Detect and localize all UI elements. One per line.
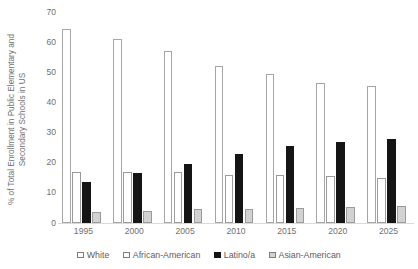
legend-entry[interactable]: Latino/a <box>214 250 255 260</box>
bar <box>326 176 335 223</box>
bar <box>245 209 254 223</box>
bar <box>164 51 173 223</box>
bar <box>62 29 71 223</box>
x-axis-tick-label: 2025 <box>363 226 414 237</box>
bar <box>276 175 285 223</box>
y-axis-title-line2: Secondary Schools in US <box>17 34 28 205</box>
bar <box>266 74 275 223</box>
bar <box>377 178 386 223</box>
y-axis-title: % of Total Enrollment in Public Elementa… <box>0 0 34 238</box>
bar <box>194 209 203 223</box>
bar <box>367 86 376 223</box>
x-axis-tick-labels: 1995200020052010201520202025 <box>58 226 414 240</box>
legend-label: Asian-American <box>279 250 341 260</box>
bar <box>82 182 91 223</box>
bar <box>215 66 224 223</box>
x-axis-line <box>58 223 414 224</box>
bar <box>92 212 101 223</box>
x-axis-tick-label: 2005 <box>160 226 211 237</box>
bar-chart: % of Total Enrollment in Public Elementa… <box>0 0 418 269</box>
bar <box>123 172 132 223</box>
bar <box>296 208 305 223</box>
y-axis-tick-label: 70 <box>46 8 56 17</box>
chart-legend: WhiteAfrican-AmericanLatino/aAsian-Ameri… <box>0 247 418 263</box>
legend-entry[interactable]: Asian-American <box>269 250 341 260</box>
bar <box>387 139 396 223</box>
legend-swatch-icon <box>123 252 130 259</box>
legend-label: African-American <box>133 250 200 260</box>
y-axis-tick-label: 10 <box>46 188 56 197</box>
bar <box>174 172 183 223</box>
bar <box>397 206 406 223</box>
y-axis-tick-label: 40 <box>46 98 56 107</box>
bar-group <box>109 12 160 223</box>
y-axis-tick-labels: 010203040506070 <box>30 0 58 238</box>
bar <box>72 172 81 223</box>
bar <box>286 146 295 223</box>
legend-swatch-icon <box>214 252 221 259</box>
bar-group <box>312 12 363 223</box>
bar <box>346 207 355 223</box>
bar-group <box>160 12 211 223</box>
legend-label: Latino/a <box>224 250 255 260</box>
x-axis-tick-label: 2000 <box>109 226 160 237</box>
x-axis-tick-label: 2015 <box>261 226 312 237</box>
legend-swatch-icon <box>269 252 276 259</box>
legend-entry[interactable]: African-American <box>123 250 200 260</box>
legend-swatch-icon <box>77 252 84 259</box>
bar-group <box>363 12 414 223</box>
y-axis-title-line1: % of Total Enrollment in Public Elementa… <box>7 34 16 205</box>
x-axis-tick-label: 1995 <box>58 226 109 237</box>
y-axis-tick-label: 50 <box>46 68 56 77</box>
bar-group <box>261 12 312 223</box>
bar-group <box>58 12 109 223</box>
y-axis-tick-label: 20 <box>46 158 56 167</box>
plot-area <box>58 12 414 223</box>
legend-entry[interactable]: White <box>77 250 109 260</box>
bar <box>316 83 325 223</box>
y-axis-tick-label: 30 <box>46 128 56 137</box>
y-axis-tick-label: 60 <box>46 38 56 47</box>
bar <box>225 175 234 223</box>
x-axis-tick-label: 2020 <box>312 226 363 237</box>
bar <box>336 142 345 223</box>
bar <box>143 211 152 223</box>
bar <box>133 173 142 223</box>
legend-label: White <box>87 250 110 260</box>
y-axis-tick-label: 0 <box>51 219 56 228</box>
bar <box>113 39 122 223</box>
bar-group <box>211 12 262 223</box>
bar <box>235 154 244 223</box>
x-axis-tick-label: 2010 <box>211 226 262 237</box>
bar <box>184 164 193 223</box>
